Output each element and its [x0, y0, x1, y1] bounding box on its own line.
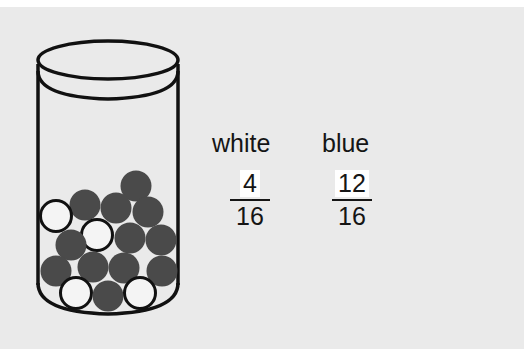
jar-lid	[38, 41, 178, 79]
blue-marble	[56, 230, 87, 261]
blue-marble	[101, 193, 132, 224]
white-marble	[41, 201, 72, 232]
white-marble	[61, 278, 92, 309]
blue-marble	[115, 223, 146, 254]
label-blue: blue	[322, 131, 369, 156]
fraction-blue: 12 16	[327, 170, 377, 229]
fraction-white-denominator: 16	[225, 204, 275, 229]
fraction-white-bar	[230, 199, 270, 201]
fraction-blue-denominator: 16	[327, 204, 377, 229]
fraction-blue-bar	[332, 199, 372, 201]
blue-marble	[133, 197, 164, 228]
label-white: white	[212, 131, 270, 156]
marbles-group	[41, 171, 178, 312]
fraction-white: 4 16	[225, 170, 275, 229]
white-marble	[125, 278, 156, 309]
fraction-white-numerator: 4	[240, 170, 260, 197]
blue-marble	[146, 225, 177, 256]
fraction-blue-numerator: 12	[335, 170, 369, 197]
blue-marble	[93, 281, 124, 312]
blue-marble	[70, 190, 101, 221]
